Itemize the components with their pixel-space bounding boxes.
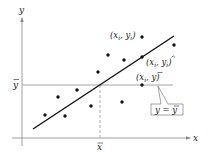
y-hat-mark: [172, 56, 176, 58]
data-point: [122, 58, 125, 61]
regression-diagram: y x y x (xi, yi) (xi, yi) (xi, y): [0, 0, 208, 152]
data-point: [106, 53, 109, 56]
data-point: [120, 100, 123, 103]
callout-equation: y = y: [154, 105, 177, 115]
x-axis-label: x: [193, 133, 198, 143]
data-point-mean: [140, 83, 143, 86]
data-point-predicted: [140, 55, 143, 58]
y-mean-label: y: [12, 80, 19, 90]
label-actual-point: (xi, yi): [110, 30, 136, 41]
x-mean-label: x: [97, 142, 102, 152]
data-point: [96, 70, 99, 73]
label-mean-point: (xi, y): [136, 72, 160, 83]
data-point-actual: [140, 35, 143, 38]
data-point: [63, 114, 66, 117]
data-point: [89, 104, 92, 107]
data-point: [75, 88, 78, 91]
data-point: [172, 43, 175, 46]
data-point: [43, 113, 46, 116]
data-point: [56, 95, 59, 98]
y-axis-label: y: [18, 5, 25, 15]
label-predicted-point: (xi, yi): [146, 57, 172, 68]
